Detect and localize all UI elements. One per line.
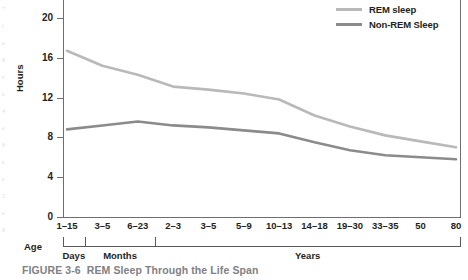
- age-group-label: Years: [295, 250, 320, 261]
- y-axis-tick-label: 12: [42, 92, 53, 103]
- y-axis-tick-label: 0: [47, 211, 53, 222]
- bleed-mark: 7: [2, 6, 5, 12]
- x-axis-label: 33–35: [372, 220, 398, 231]
- x-axis-label: 19–30: [337, 220, 363, 231]
- bleed-mark: 9: [2, 227, 5, 233]
- bleed-mark: e: [2, 210, 5, 216]
- x-axis-label: 6–23: [127, 220, 148, 231]
- age-bracket-tick: [85, 237, 86, 247]
- bleed-mark: e: [2, 40, 5, 46]
- y-axis-tick-label: 8: [47, 131, 53, 142]
- bleed-mark: s: [2, 176, 4, 182]
- x-axis-label: 50: [415, 220, 426, 231]
- x-axis-label: 1–15: [56, 220, 77, 231]
- bleed-mark: 9: [2, 142, 5, 148]
- y-axis-tick-label: 4: [47, 171, 53, 182]
- bleed-mark: 9: [2, 57, 5, 63]
- age-group-label: Months: [103, 250, 137, 261]
- bleed-mark: s: [2, 74, 4, 80]
- x-axis-label: 3–5: [94, 220, 110, 231]
- age-bracket-tick: [460, 237, 461, 247]
- figure-caption: FIGURE 3-6REM Sleep Through the Life Spa…: [22, 264, 258, 276]
- figure-rem-sleep-life-span: 7re9ss4e9ss5e9 REM sleep Non-REM Sleep H…: [0, 0, 468, 280]
- bleed-mark: s: [2, 91, 4, 97]
- bleed-mark: e: [2, 125, 5, 131]
- x-axis-label: 5–9: [236, 220, 252, 231]
- age-bracket-tick: [63, 237, 64, 247]
- x-axis-labels: 1–153–56–232–33–55–910–1314–1819–3033–35…: [63, 220, 461, 234]
- x-axis-label: 2–3: [165, 220, 181, 231]
- y-axis-tick-label: 16: [42, 52, 53, 63]
- age-bracket-tick: [155, 237, 156, 247]
- y-axis-title: Hours: [14, 65, 25, 92]
- series-lines: [63, 0, 461, 218]
- age-group-labels: DaysMonthsYears: [63, 250, 461, 264]
- bleed-mark: 4: [2, 108, 5, 114]
- bleed-mark: 5: [2, 193, 5, 199]
- figure-number: FIGURE 3-6: [22, 264, 81, 276]
- x-axis-group-title: Age: [24, 241, 42, 252]
- age-bracket: [63, 237, 461, 247]
- figure-title: REM Sleep Through the Life Span: [87, 264, 259, 276]
- x-axis-label: 80: [451, 220, 462, 231]
- bleed-mark: r: [2, 23, 4, 29]
- y-axis-tick-label: 20: [42, 12, 53, 23]
- x-axis-label: 10–13: [266, 220, 292, 231]
- plot-area: 048121620: [63, 0, 461, 218]
- x-axis-label: 3–5: [201, 220, 217, 231]
- bleed-mark: s: [2, 159, 4, 165]
- age-bracket-line: [63, 246, 461, 247]
- series-line-non-rem-sleep: [67, 121, 456, 159]
- x-axis-label: 14–18: [301, 220, 327, 231]
- page-bleed-artifacts: 7re9ss4e9ss5e9: [0, 0, 14, 250]
- age-group-label: Days: [62, 250, 85, 261]
